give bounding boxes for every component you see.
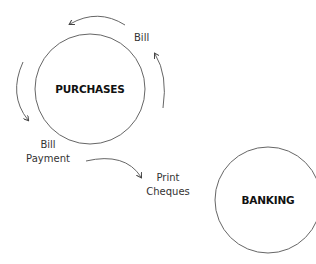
print-cheques-line2: Cheques [144, 185, 192, 199]
right-cycle-arrow-icon [155, 54, 164, 108]
bill-label: Bill [134, 31, 149, 45]
print-cheques-label: Print Cheques [144, 171, 192, 199]
bill-payment-line2: Payment [24, 152, 72, 166]
print-cheques-line1: Print [144, 171, 192, 185]
left-cycle-arrow-icon [17, 62, 28, 120]
banking-node-label: BANKING [242, 194, 295, 206]
payment-to-cheques-arrow-icon [86, 159, 141, 177]
purchases-node-label: PURCHASES [55, 83, 124, 95]
bill-payment-line1: Bill [24, 138, 72, 152]
bill-payment-label: Bill Payment [24, 138, 72, 166]
top-cycle-arrow-icon [70, 16, 125, 25]
diagram-canvas [0, 0, 316, 264]
